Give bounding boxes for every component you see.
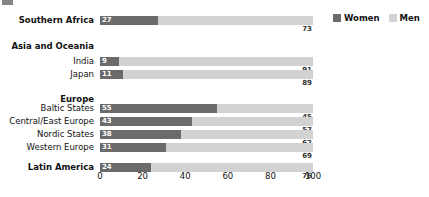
bar-value-men: 73: [302, 25, 312, 34]
category-label: Western Europe: [0, 143, 94, 152]
category-label: Nordic States: [0, 130, 94, 139]
bar-value-women: 11: [102, 70, 112, 79]
x-axis-tick-label: 80: [265, 171, 276, 182]
bar-row: 3169: [100, 143, 313, 152]
legend-entry-men: Men: [389, 14, 420, 23]
bar-segment-women: [100, 130, 181, 139]
legend-swatch-men-icon: [389, 14, 397, 22]
bar-value-women: 38: [102, 130, 112, 139]
bar-row: 4357: [100, 117, 313, 126]
legend-swatch-women-icon: [333, 14, 341, 22]
category-label: India: [0, 57, 94, 66]
x-axis-tick-label: 40: [180, 171, 191, 182]
page-edge-artifact: [2, 0, 13, 5]
bar-row: 3862: [100, 130, 313, 139]
category-label: Central/East Europe: [0, 117, 94, 126]
bar-row: 5545: [100, 104, 313, 113]
chart-legend: Women Men: [333, 14, 420, 23]
bar-segment-men: [119, 57, 313, 66]
bar-value-women: 9: [102, 57, 107, 66]
x-axis-tick-label: 20: [137, 171, 148, 182]
bar-segment-men: [123, 70, 313, 79]
bar-value-women: 43: [102, 117, 112, 126]
plot-area: 2773991118955454357386231692476: [100, 0, 313, 197]
bar-value-women: 55: [102, 104, 112, 113]
bar-segment-women: [100, 117, 192, 126]
bar-segment-women: [100, 104, 217, 113]
x-axis-tick-label: 0: [97, 171, 102, 182]
bar-segment-men: [192, 117, 313, 126]
bar-row: 2773: [100, 16, 313, 25]
stacked-bar-chart: Women Men Southern AfricaAsia and Oceani…: [0, 0, 429, 197]
bar-segment-men: [166, 143, 313, 152]
bar-row: 991: [100, 57, 313, 66]
category-label: Latin America: [0, 163, 94, 172]
bar-value-women: 31: [102, 143, 112, 152]
legend-entry-women: Women: [333, 14, 380, 23]
x-axis-tick-label: 100: [305, 171, 321, 182]
bar-value-men: 89: [302, 79, 312, 88]
category-label: Baltic States: [0, 104, 94, 113]
category-label: Asia and Oceania: [0, 42, 94, 51]
legend-label-women: Women: [344, 14, 380, 23]
category-label: Southern Africa: [0, 16, 94, 25]
bar-row: 1189: [100, 70, 313, 79]
bar-segment-men: [158, 16, 313, 25]
x-axis: 020406080100: [100, 171, 313, 185]
legend-label-men: Men: [400, 14, 420, 23]
x-axis-tick-label: 60: [222, 171, 233, 182]
bar-segment-men: [181, 130, 313, 139]
bar-value-women: 27: [102, 16, 112, 25]
bar-segment-men: [217, 104, 313, 113]
bar-value-men: 69: [302, 152, 312, 161]
category-label: Japan: [0, 70, 94, 79]
